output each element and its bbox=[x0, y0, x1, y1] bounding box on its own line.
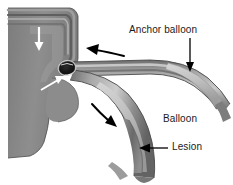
label-balloon: Balloon bbox=[163, 113, 197, 124]
label-anchor-balloon: Anchor balloon bbox=[129, 24, 197, 35]
lesion-branch-tip-notch bbox=[108, 162, 128, 180]
lesion-branch-vessel bbox=[70, 70, 155, 183]
anchor-balloon-technique-illustration: Anchor balloon Balloon Lesion bbox=[0, 0, 233, 185]
lower-branch-arrow-shaft bbox=[92, 104, 108, 120]
lower-branch-arrow-head bbox=[105, 115, 117, 127]
illustration-canvas bbox=[0, 0, 233, 185]
lower-branch-arrow bbox=[92, 104, 117, 127]
label-lesion: Lesion bbox=[172, 141, 202, 152]
upper-branch-arrow-shaft bbox=[96, 50, 124, 56]
aorta bbox=[8, 8, 79, 158]
upper-branch-arrow bbox=[86, 44, 124, 56]
anchor-branch-vessel bbox=[70, 60, 231, 122]
upper-branch-arrow-head bbox=[86, 44, 99, 55]
